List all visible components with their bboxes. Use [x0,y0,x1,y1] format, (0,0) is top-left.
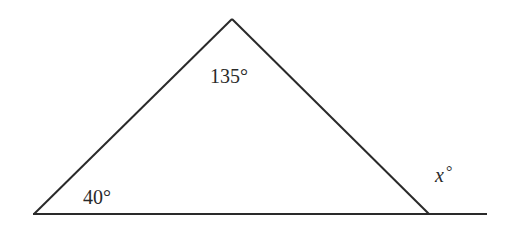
exterior-angle-degree: ° [446,163,452,180]
right-side [232,19,429,214]
apex-angle-label: 135° [210,65,248,87]
exterior-angle-variable: x [434,164,444,186]
exterior-angle-label: x° [434,163,452,186]
left-side [34,19,232,214]
diagram-svg: 135° 40° x° [0,0,513,242]
triangle-diagram: 135° 40° x° [0,0,513,242]
bottom-left-angle-label: 40° [83,186,111,208]
